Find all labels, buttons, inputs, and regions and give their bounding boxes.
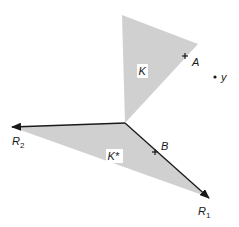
cone-k-region (122, 15, 198, 123)
cone-diagram: A y B K K* R2 R1 (0, 0, 239, 227)
ray-r1-label: R1 (198, 205, 211, 220)
point-y-label: y (220, 71, 228, 83)
cone-k-label: K (139, 65, 147, 77)
ray-r2-label: R2 (12, 135, 25, 150)
point-a-label: A (191, 56, 199, 68)
point-y-marker (213, 75, 216, 78)
point-b-label: B (161, 140, 168, 152)
cone-k-star-label: K* (108, 150, 120, 162)
